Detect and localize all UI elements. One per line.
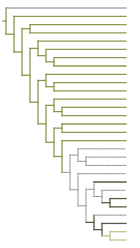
phylogenetic-tree — [0, 0, 140, 248]
